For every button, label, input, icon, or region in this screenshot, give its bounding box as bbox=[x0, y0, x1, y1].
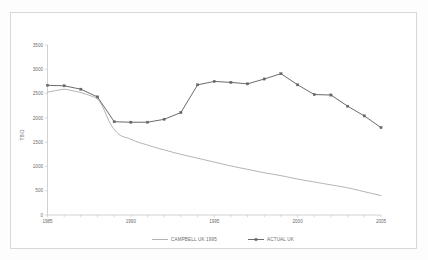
y-tick-label: 0 bbox=[40, 213, 43, 218]
data-point-marker bbox=[246, 83, 248, 85]
data-point-marker bbox=[96, 96, 98, 98]
data-point-marker bbox=[80, 88, 82, 90]
data-point-marker bbox=[280, 73, 282, 75]
x-axis-tick-labels: 19851990199520002005 bbox=[42, 219, 386, 224]
x-tick-label: 1985 bbox=[42, 219, 53, 224]
x-tick-label: 1995 bbox=[209, 219, 220, 224]
y-tick-label: 1000 bbox=[33, 164, 44, 169]
data-point-marker bbox=[263, 78, 265, 80]
legend-label: ACTUAL UK bbox=[267, 237, 295, 242]
x-tick-label: 1990 bbox=[126, 219, 137, 224]
data-point-marker bbox=[230, 81, 232, 83]
y-tick-label: 3500 bbox=[33, 43, 44, 48]
y-axis-title: TB/D bbox=[20, 129, 25, 140]
y-tick-label: 2000 bbox=[33, 116, 44, 121]
data-point-marker bbox=[380, 126, 382, 128]
x-tick-label: 2005 bbox=[376, 219, 387, 224]
data-point-marker bbox=[296, 84, 298, 86]
data-point-marker bbox=[63, 85, 65, 87]
data-point-marker bbox=[113, 121, 115, 123]
data-point-marker bbox=[130, 121, 132, 123]
data-point-marker bbox=[213, 80, 215, 82]
y-axis-tick-labels: 0500100015002000250030003500 bbox=[33, 43, 44, 218]
series-line bbox=[48, 89, 382, 195]
y-tick-label: 2500 bbox=[33, 91, 44, 96]
data-point-marker bbox=[46, 84, 48, 86]
data-point-marker bbox=[347, 105, 349, 107]
y-tick-label: 3000 bbox=[33, 67, 44, 72]
y-tick-label: 500 bbox=[35, 188, 43, 193]
legend-item-actual-uk[interactable]: ACTUAL UK bbox=[248, 237, 295, 242]
y-tick-label: 1500 bbox=[33, 140, 44, 145]
data-point-marker bbox=[163, 118, 165, 120]
data-point-marker bbox=[363, 115, 365, 117]
x-tick-label: 2000 bbox=[293, 219, 304, 224]
series-campbell-uk-1995 bbox=[48, 89, 382, 195]
data-point-marker bbox=[313, 93, 315, 95]
line-chart: 0500100015002000250030003500 19851990199… bbox=[0, 0, 428, 260]
data-point-marker bbox=[330, 94, 332, 96]
series-layer bbox=[46, 73, 382, 196]
legend-marker-swatch bbox=[255, 238, 258, 241]
data-point-marker bbox=[196, 84, 198, 86]
data-point-marker bbox=[180, 111, 182, 113]
legend-item-campbell-uk-1995[interactable]: CAMPBELL UK 1995 bbox=[152, 237, 217, 242]
chart-figure: 0500100015002000250030003500 19851990199… bbox=[0, 0, 428, 260]
data-point-marker bbox=[146, 121, 148, 123]
series-actual-uk bbox=[46, 73, 382, 129]
legend-label: CAMPBELL UK 1995 bbox=[171, 237, 217, 242]
chart-legend: CAMPBELL UK 1995ACTUAL UK bbox=[152, 237, 295, 242]
